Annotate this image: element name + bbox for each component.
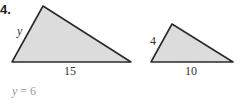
large-triangle-base-label: 15 <box>64 64 76 79</box>
large-triangle-left-side-label: y <box>17 24 22 39</box>
small-triangle-base-label: 10 <box>185 64 197 79</box>
answer-text: y = 6 <box>12 84 36 99</box>
answer-value: = 6 <box>20 84 36 98</box>
answer-variable: y <box>12 84 17 98</box>
large-triangle <box>12 6 131 62</box>
small-triangle-left-side-label: 4 <box>150 34 156 49</box>
small-triangle <box>151 24 233 62</box>
